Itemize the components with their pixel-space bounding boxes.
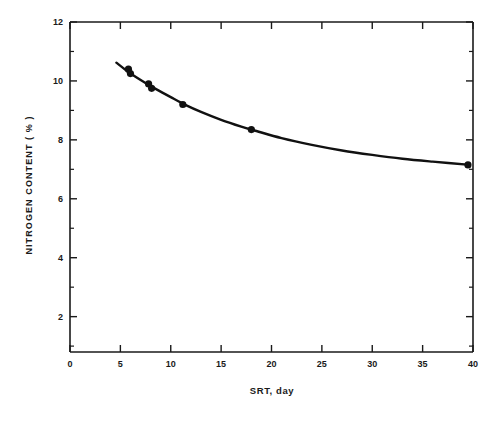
chart-figure: NITROGEN CONTENT ( % ) SRT, day 24681012… bbox=[0, 0, 498, 422]
x-tick-label: 5 bbox=[107, 359, 133, 369]
data-point-marker bbox=[127, 70, 134, 77]
data-point-marker bbox=[464, 161, 471, 168]
x-axis-title: SRT, day bbox=[70, 385, 474, 396]
data-point-marker bbox=[248, 126, 255, 133]
y-tick-label: 12 bbox=[37, 17, 63, 27]
y-tick-label: 8 bbox=[37, 135, 63, 145]
data-point-marker bbox=[179, 101, 186, 108]
data-point-marker bbox=[148, 85, 155, 92]
y-tick-label: 6 bbox=[37, 194, 63, 204]
x-tick-label: 40 bbox=[460, 359, 486, 369]
x-tick-label: 30 bbox=[359, 359, 385, 369]
series-fit-line bbox=[116, 63, 470, 165]
x-tick-label: 35 bbox=[410, 359, 436, 369]
y-tick-label: 4 bbox=[37, 253, 63, 263]
y-axis-title: NITROGEN CONTENT ( % ) bbox=[18, 15, 40, 355]
y-tick-label: 10 bbox=[37, 76, 63, 86]
y-tick-label: 2 bbox=[37, 312, 63, 322]
x-tick-label: 15 bbox=[208, 359, 234, 369]
x-tick-label: 25 bbox=[309, 359, 335, 369]
data-point-markers bbox=[125, 66, 472, 169]
x-tick-label: 20 bbox=[259, 359, 285, 369]
x-tick-label: 10 bbox=[158, 359, 184, 369]
x-tick-label: 0 bbox=[57, 359, 83, 369]
fit-curve bbox=[116, 63, 470, 165]
